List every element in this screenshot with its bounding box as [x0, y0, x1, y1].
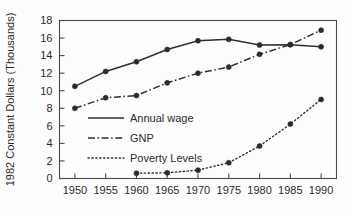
data-point	[72, 84, 77, 89]
data-point	[165, 80, 170, 85]
y-tick-label: 12	[40, 67, 52, 79]
legend-item: Annual wage	[88, 112, 194, 124]
y-tick-label: 0	[46, 172, 52, 184]
x-tick-label: 1985	[278, 184, 302, 196]
data-point	[103, 69, 108, 74]
x-axis-tick-labels: 195019551960196519701975198019851990	[63, 184, 334, 196]
y-tick-label: 16	[40, 32, 52, 44]
data-point	[226, 160, 231, 165]
data-point	[134, 171, 139, 176]
data-point	[257, 52, 262, 57]
data-point	[226, 37, 231, 42]
data-point	[319, 28, 324, 33]
legend-label: Poverty Levels	[130, 152, 203, 164]
y-axis-ticks	[60, 21, 65, 179]
y-tick-label: 8	[46, 102, 52, 114]
data-point	[226, 65, 231, 70]
series-annual-wage	[72, 37, 323, 89]
y-tick-label: 10	[40, 85, 52, 97]
data-point	[196, 168, 201, 173]
data-point	[72, 106, 77, 111]
x-axis-ticks	[75, 174, 321, 179]
data-point	[196, 71, 201, 76]
data-point	[196, 38, 201, 43]
y-axis-title: 1982 Constant Dollars (Thousands)	[4, 13, 16, 187]
y-tick-label: 18	[40, 14, 52, 26]
chart-figure: 024681012141618 195019551960196519701975…	[0, 0, 350, 217]
line-chart: 024681012141618 195019551960196519701975…	[0, 0, 350, 217]
x-tick-label: 1960	[124, 184, 148, 196]
x-tick-label: 1955	[93, 184, 117, 196]
data-point	[134, 59, 139, 64]
y-tick-label: 2	[46, 155, 52, 167]
data-point	[319, 97, 324, 102]
data-point	[103, 95, 108, 100]
x-tick-label: 1975	[217, 184, 241, 196]
y-tick-label: 14	[40, 49, 52, 61]
x-tick-label: 1950	[63, 184, 87, 196]
y-axis-tick-labels: 024681012141618	[40, 14, 52, 184]
chart-legend: Annual wageGNPPoverty Levels	[88, 112, 203, 164]
data-point	[288, 42, 293, 47]
x-tick-label: 1980	[247, 184, 271, 196]
legend-item: Poverty Levels	[88, 152, 203, 164]
data-point	[165, 170, 170, 175]
legend-label: Annual wage	[130, 112, 194, 124]
y-tick-label: 4	[46, 137, 52, 149]
legend-item: GNP	[88, 132, 154, 144]
y-tick-label: 6	[46, 120, 52, 132]
legend-label: GNP	[130, 132, 154, 144]
x-tick-label: 1990	[309, 184, 333, 196]
data-point	[134, 93, 139, 98]
x-tick-label: 1965	[155, 184, 179, 196]
data-point	[257, 144, 262, 149]
data-point	[257, 43, 262, 48]
data-point	[288, 122, 293, 127]
data-point	[165, 47, 170, 52]
x-tick-label: 1970	[186, 184, 210, 196]
data-point	[319, 44, 324, 49]
